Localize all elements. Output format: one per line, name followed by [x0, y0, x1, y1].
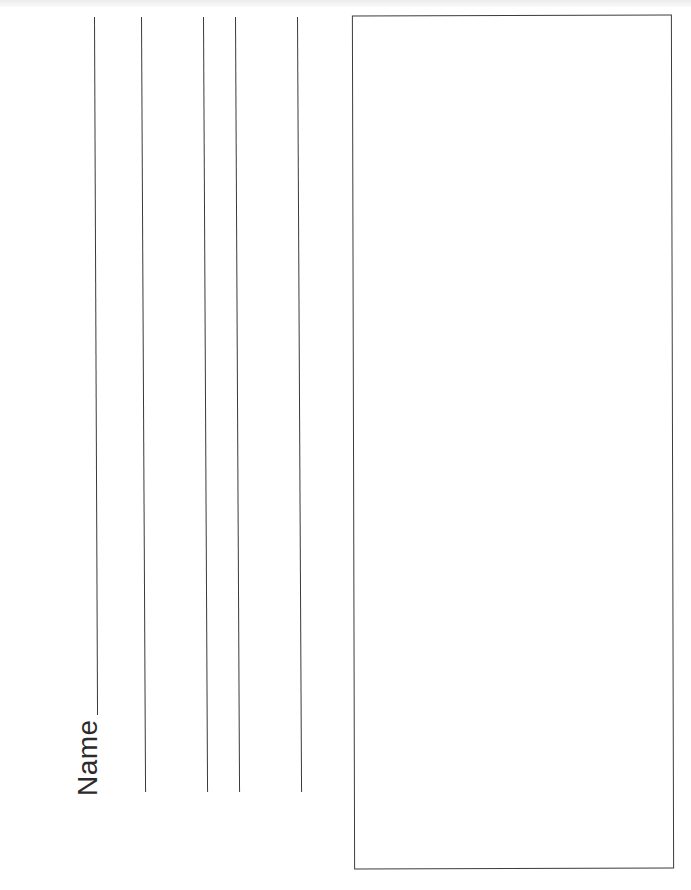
- writing-line-5[interactable]: [297, 17, 302, 792]
- writing-line-2[interactable]: [141, 17, 146, 792]
- writing-line-3[interactable]: [203, 17, 208, 792]
- writing-line-4[interactable]: [235, 17, 240, 792]
- name-underline[interactable]: [94, 17, 98, 715]
- scan-artifact-band: [0, 0, 691, 7]
- drawing-box[interactable]: [352, 15, 674, 870]
- name-label: Name: [74, 719, 102, 796]
